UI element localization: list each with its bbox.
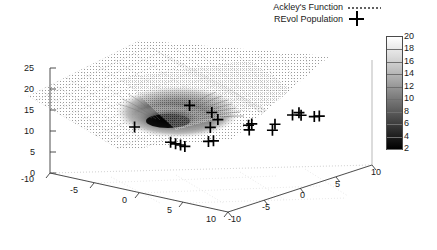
colorbar-tickmark (387, 112, 402, 113)
colorbar-label-10: 10 (404, 93, 414, 103)
colorbar-tickmark (387, 49, 402, 50)
colorbar-tickmark (387, 124, 402, 125)
z-tick-25: 25 (24, 64, 34, 73)
colorbar-label-18: 18 (404, 43, 414, 53)
colorbar-label-4: 4 (404, 131, 409, 141)
colorbar-label-20: 20 (404, 31, 414, 41)
x-tick-5: 5 (167, 206, 172, 215)
population-plus-marker (267, 125, 278, 136)
z-tick-10: 10 (24, 127, 34, 136)
y-tick-10: 10 (371, 168, 381, 177)
colorbar-label-16: 16 (404, 56, 414, 66)
colorbar-label-14: 14 (404, 68, 414, 78)
colorbar-label-12: 12 (404, 81, 414, 91)
x-axis-ticks (46, 173, 228, 217)
population-plus-marker (296, 110, 307, 121)
colorbar-label-6: 6 (404, 118, 409, 128)
y-tick--10: -10 (228, 215, 241, 224)
plot-canvas (0, 0, 437, 250)
colorbar-tickmark (387, 137, 402, 138)
population-plus-marker (293, 107, 304, 118)
surface-mesh (28, 40, 330, 152)
y-tick-5: 5 (335, 180, 340, 189)
z-tick-20: 20 (24, 85, 34, 94)
z-tick-15: 15 (24, 106, 34, 115)
colorbar-label-8: 8 (404, 106, 409, 116)
colorbar-tickmark (387, 74, 402, 75)
x-tick-0: 0 (122, 196, 127, 205)
colorbar-tickmark (387, 149, 402, 150)
x-tick--10: -10 (21, 175, 34, 184)
population-plus-marker (269, 119, 280, 130)
x-tick-10: 10 (206, 215, 216, 224)
colorbar-tickmark (387, 62, 402, 63)
y-tick-0: 0 (300, 191, 305, 200)
x-tick--5: -5 (70, 186, 78, 195)
colorbar-tickmark (387, 87, 402, 88)
colorbar (386, 36, 403, 150)
z-tick-5: 5 (30, 148, 35, 157)
plot-figure: Ackley's Function REvol Population (0, 0, 437, 250)
y-tick--5: -5 (262, 203, 270, 212)
colorbar-label-2: 2 (404, 143, 409, 153)
colorbar-tickmark (387, 99, 402, 100)
population-plus-marker (314, 111, 325, 122)
